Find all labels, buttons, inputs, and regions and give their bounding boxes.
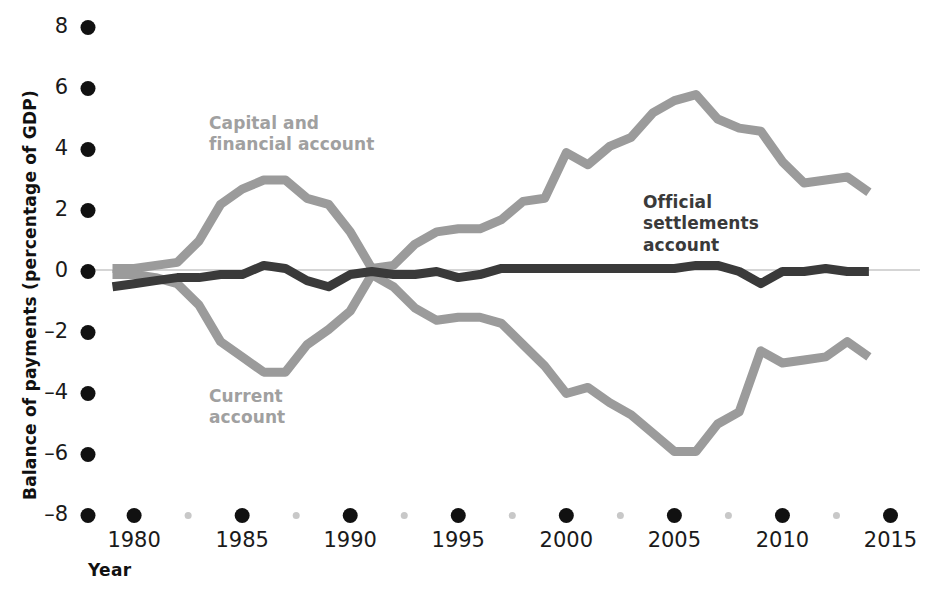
y-tick-label: –4 bbox=[28, 380, 68, 404]
x-tick-label: 2015 bbox=[851, 528, 927, 552]
x-minor-tick-dot bbox=[185, 512, 192, 519]
y-tick-dot bbox=[81, 325, 96, 340]
series-label-capital-and-financial-account: Capital and financial account bbox=[209, 113, 374, 156]
y-tick-dot bbox=[81, 20, 96, 35]
x-minor-tick-dot bbox=[725, 512, 732, 519]
x-tick-label: 1985 bbox=[202, 528, 282, 552]
x-tick-label: 1980 bbox=[94, 528, 174, 552]
y-tick-dot bbox=[81, 508, 96, 523]
y-tick-label: 2 bbox=[28, 197, 68, 221]
series-line-official-settlements-account bbox=[113, 265, 869, 286]
y-tick-dot bbox=[81, 447, 96, 462]
y-tick-dot bbox=[81, 81, 96, 96]
x-minor-tick-dot bbox=[833, 512, 840, 519]
y-tick-dot bbox=[81, 264, 96, 279]
x-tick-dot bbox=[343, 508, 358, 523]
x-minor-tick-dot bbox=[617, 512, 624, 519]
x-minor-tick-dot bbox=[293, 512, 300, 519]
y-tick-label: 6 bbox=[28, 75, 68, 99]
series-label-official-settlements-account: Official settlements account bbox=[643, 192, 759, 256]
x-axis-minor-tick-dots bbox=[185, 512, 840, 519]
y-tick-label: 8 bbox=[28, 14, 68, 38]
y-tick-label: –6 bbox=[28, 441, 68, 465]
x-axis-title: Year bbox=[88, 560, 131, 580]
x-tick-label: 2010 bbox=[742, 528, 822, 552]
x-tick-label: 2000 bbox=[526, 528, 606, 552]
y-tick-dot bbox=[81, 142, 96, 157]
x-tick-label: 1990 bbox=[310, 528, 390, 552]
chart-plot-area bbox=[0, 0, 927, 611]
x-tick-label: 2005 bbox=[634, 528, 714, 552]
x-tick-dot bbox=[451, 508, 466, 523]
y-tick-label: 0 bbox=[28, 258, 68, 282]
y-tick-label: 4 bbox=[28, 136, 68, 160]
x-tick-label: 1995 bbox=[418, 528, 498, 552]
x-tick-dot bbox=[235, 508, 250, 523]
x-tick-dot bbox=[559, 508, 574, 523]
x-tick-dot bbox=[775, 508, 790, 523]
series-label-current-account: Current account bbox=[209, 386, 285, 429]
y-tick-dot bbox=[81, 386, 96, 401]
x-minor-tick-dot bbox=[509, 512, 516, 519]
y-tick-label: –2 bbox=[28, 319, 68, 343]
x-tick-dot bbox=[127, 508, 142, 523]
x-tick-dot bbox=[883, 508, 898, 523]
x-tick-dot bbox=[667, 508, 682, 523]
y-axis-major-tick-dots bbox=[81, 20, 96, 523]
x-minor-tick-dot bbox=[401, 512, 408, 519]
y-tick-dot bbox=[81, 203, 96, 218]
y-tick-label: –8 bbox=[28, 502, 68, 526]
balance-of-payments-chart: Balance of payments (percentage of GDP) … bbox=[0, 0, 927, 611]
